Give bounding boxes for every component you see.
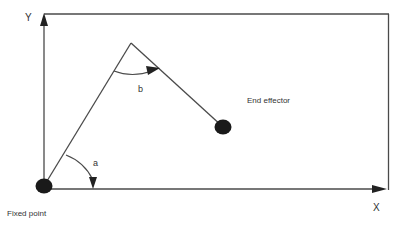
arm-link-2 — [131, 43, 223, 127]
angle-a-arrow-icon — [89, 177, 97, 189]
y-axis-label: Y — [25, 12, 32, 23]
fixed-point-joint — [36, 179, 53, 194]
arm-link-1 — [44, 43, 131, 186]
end-effector-joint — [215, 120, 232, 135]
end-effector-label: End effector — [247, 96, 290, 105]
x-axis-label: X — [373, 202, 380, 213]
robot-arm-diagram: Y X Fixed point End effector a b — [0, 0, 406, 227]
angle-a-arc — [66, 155, 93, 180]
angle-a-label: a — [93, 158, 98, 168]
fixed-point-label: Fixed point — [7, 209, 47, 218]
y-axis-arrow-icon — [40, 13, 48, 26]
x-axis-arrow-icon — [372, 185, 387, 193]
angle-b-arc — [114, 71, 152, 75]
angle-b-label: b — [138, 84, 143, 94]
